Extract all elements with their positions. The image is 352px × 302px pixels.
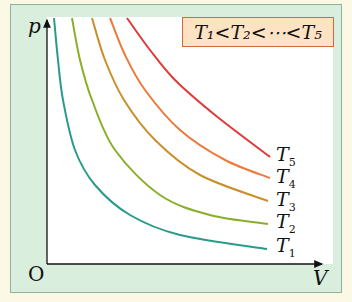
y-axis-label: p: [28, 14, 41, 38]
origin-label: O: [28, 262, 44, 286]
curve-label-t1: T1: [276, 234, 296, 260]
curve-label-t3: T3: [276, 188, 296, 214]
x-axis-label: V: [313, 266, 327, 290]
isotherm-t1: [54, 18, 267, 249]
isotherm-curves: [54, 18, 270, 249]
curve-label-t4: T4: [276, 165, 296, 191]
curve-label-t2: T2: [276, 210, 296, 236]
temperature-order-legend: T₁<T₂<⋯<T₅: [182, 17, 334, 47]
curve-label-t5: T5: [276, 143, 296, 169]
